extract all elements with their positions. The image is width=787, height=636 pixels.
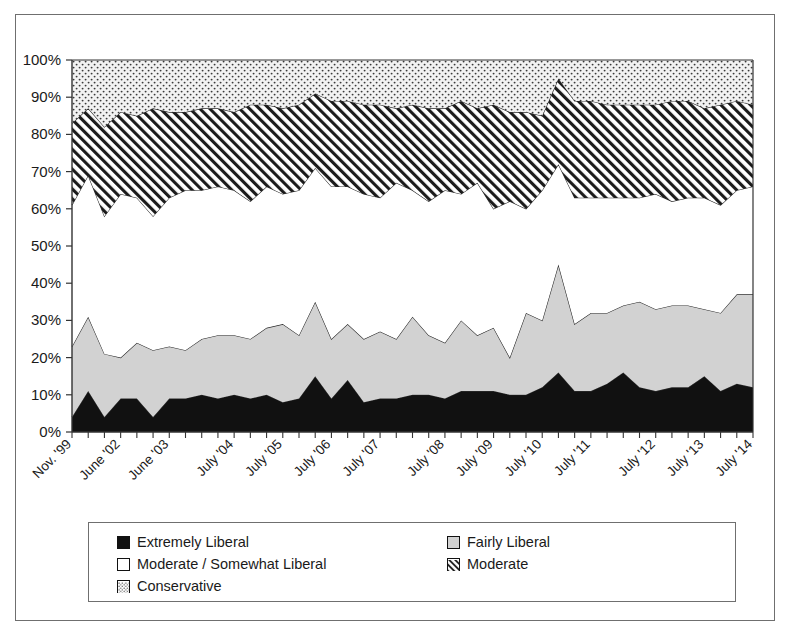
- x-tick-label: July '14: [712, 436, 755, 479]
- legend-swatch-conservative-icon: [117, 580, 130, 593]
- chart-legend: Extremely Liberal Fairly Liberal Moderat…: [88, 522, 736, 602]
- x-tick-label: July '05: [242, 437, 285, 480]
- x-tick-label: July '07: [340, 437, 383, 480]
- x-tick-label: July '04: [194, 436, 237, 479]
- figure-page: 0%10%20%30%40%50%60%70%80%90%100% Nov. '…: [0, 0, 787, 636]
- legend-label-extremely-liberal: Extremely Liberal: [137, 535, 249, 550]
- legend-label-moderate-somewhat-liberal: Moderate / Somewhat Liberal: [137, 557, 326, 572]
- x-tick-label: July '10: [502, 437, 545, 480]
- plot-series-group: [72, 60, 753, 432]
- legend-item-moderate[interactable]: Moderate: [447, 557, 717, 572]
- y-tick-label: 20%: [31, 349, 61, 366]
- y-tick-label: 40%: [31, 274, 61, 291]
- x-tick-label: July '13: [664, 437, 707, 480]
- legend-label-fairly-liberal: Fairly Liberal: [467, 535, 550, 550]
- y-tick-label: 100%: [23, 51, 61, 68]
- x-tick-label: June '02: [76, 437, 122, 483]
- y-tick-label: 0%: [39, 423, 61, 440]
- legend-item-fairly-liberal[interactable]: Fairly Liberal: [447, 535, 717, 550]
- y-tick-label: 10%: [31, 386, 61, 403]
- x-tick-label: July '11: [551, 437, 593, 479]
- y-tick-label: 80%: [31, 125, 61, 142]
- legend-swatch-moderate-icon: [447, 558, 460, 571]
- y-axis-tick-labels: 0%10%20%30%40%50%60%70%80%90%100%: [23, 51, 61, 440]
- x-axis-tick-labels: Nov. '99June '02June '03July '04July '05…: [29, 436, 755, 483]
- legend-swatch-extremely-liberal-icon: [117, 536, 130, 549]
- legend-label-moderate: Moderate: [467, 557, 528, 572]
- y-tick-label: 60%: [31, 200, 61, 217]
- legend-label-conservative: Conservative: [137, 579, 222, 594]
- x-tick-label: July '06: [291, 437, 334, 480]
- legend-swatch-moderate-somewhat-liberal-icon: [117, 558, 130, 571]
- legend-item-conservative[interactable]: Conservative: [117, 579, 447, 594]
- y-tick-label: 90%: [31, 88, 61, 105]
- x-tick-label: Nov. '99: [29, 437, 74, 482]
- x-tick-label: June '03: [125, 437, 171, 483]
- x-tick-label: July '12: [615, 437, 658, 480]
- x-tick-label: July '08: [404, 437, 447, 480]
- x-tick-label: July '09: [453, 437, 496, 480]
- y-tick-label: 70%: [31, 163, 61, 180]
- legend-item-moderate-somewhat-liberal[interactable]: Moderate / Somewhat Liberal: [117, 557, 447, 572]
- y-tick-label: 50%: [31, 237, 61, 254]
- y-tick-label: 30%: [31, 311, 61, 328]
- legend-item-extremely-liberal[interactable]: Extremely Liberal: [117, 535, 447, 550]
- legend-swatch-fairly-liberal-icon: [447, 536, 460, 549]
